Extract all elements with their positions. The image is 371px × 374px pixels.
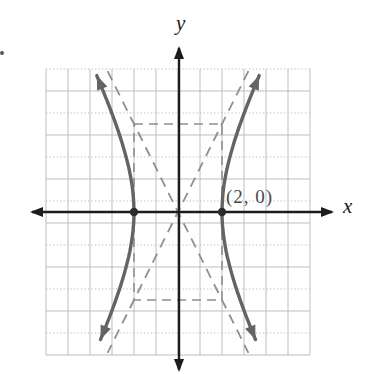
hyperbola-figure: y x (2, 0) [0,0,371,374]
vertex-point-label: (2, 0) [226,186,273,208]
graph-canvas [0,0,371,374]
x-axis-label: x [343,196,352,217]
y-axis-label: y [176,13,185,34]
